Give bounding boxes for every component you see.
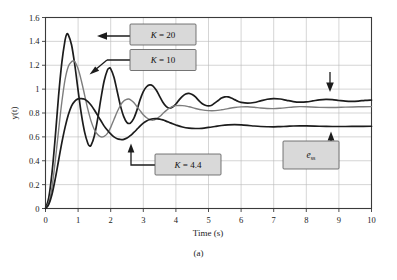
x-tick-label: 1 [76,215,80,225]
annotation-k10: K = 10 [90,50,197,75]
y-tick-label: 1.2 [29,60,40,70]
annotation-k44: K = 4.4 [128,144,221,176]
step-response-chart: 012345678910 00.20.40.60.811.21.41.6 Tim… [0,0,397,280]
x-tick-label: 3 [141,215,145,225]
y-tick-label: 1 [35,84,39,94]
annotation-ess-arrowhead [328,132,335,141]
x-tick-label: 6 [239,215,243,225]
y-tick-label: 1.4 [29,36,40,46]
annotation-k44-label: K = 4.4 [174,160,202,170]
y-tick-label: 0.4 [29,156,40,166]
figure-caption: (a) [0,248,397,258]
x-tick-label: 0 [43,215,47,225]
x-tick-labels: 012345678910 [43,215,375,225]
y-tick-label: 0.8 [29,108,40,118]
y-tick-label: 0.6 [29,132,40,142]
x-tick-label: 7 [272,215,276,225]
x-tick-label: 2 [109,215,113,225]
annotation-k10-label: K = 10 [150,55,176,65]
tick-marks [42,18,372,213]
y-tick-label: 0 [35,204,39,214]
x-tick-label: 10 [367,215,376,225]
x-axis-title: Time (s) [193,228,223,238]
figure-container: 012345678910 00.20.40.60.811.21.41.6 Tim… [0,0,397,280]
x-tick-label: 8 [304,215,308,225]
annotation-k20: K = 20 [97,24,196,45]
down-arrow-icon [326,83,334,93]
y-tick-label: 1.6 [29,13,40,23]
annotation-k44-arrowhead [128,144,135,153]
x-tick-label: 5 [206,215,210,225]
grid-lines [46,18,372,209]
y-axis-title: y(t) [9,107,19,120]
y-tick-labels: 00.20.40.60.811.21.41.6 [29,13,40,214]
y-tick-label: 0.2 [29,180,40,190]
annotation-k20-arrowhead [97,32,107,40]
x-tick-label: 9 [337,215,341,225]
annotation-k20-label: K = 20 [150,30,176,40]
x-tick-label: 4 [174,215,179,225]
